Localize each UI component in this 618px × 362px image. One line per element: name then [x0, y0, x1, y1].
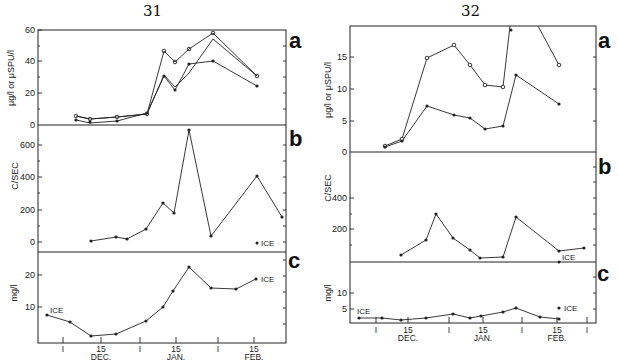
- fig31-a-filled-markers: [74, 59, 258, 123]
- fig31-panel-label-c: c: [288, 248, 300, 273]
- fig31-c-ice-annotation-left: ICE: [50, 306, 63, 315]
- fig31-a-ytick-20: 20: [25, 88, 35, 98]
- fig32-c-markers: [357, 306, 560, 321]
- fig31-b-ice-annotation: ICE: [261, 239, 274, 248]
- fig31-a-open-markers: [74, 31, 259, 121]
- fig31-xtick-1: I: [62, 344, 64, 354]
- fig31-c-ytick-20: 20: [25, 270, 35, 280]
- fig32-xtick-1d: I: [586, 325, 588, 335]
- figure-31: 60 40 20 0 μg/l or μSPU/l a: [6, 25, 302, 362]
- fig31-panel-label-b: b: [289, 126, 302, 151]
- fig31-xtick-1b: I: [139, 344, 141, 354]
- fig32-c-yticks: [350, 277, 596, 309]
- fig31-a-filled-series: [76, 61, 257, 123]
- fig32-b-ice-annotation: ICE: [562, 253, 575, 262]
- fig31-c-yticks: [38, 260, 286, 324]
- fig31-a-ylabel: μg/l or μSPU/l: [6, 50, 16, 106]
- fig32-c-ice-annotation-right: ICE: [564, 304, 577, 313]
- fig32-c-ytick-5: 5: [342, 304, 347, 314]
- figure-32: 15 10 5 0 μg/l or μSPU/l a 400 200: [323, 26, 611, 343]
- fig32-c-ice-annotation-left: ICE: [357, 307, 370, 316]
- fig32-b-ytick-400: 400: [332, 193, 347, 203]
- fig32-month-jan: JAN.: [474, 333, 492, 343]
- fig31-b-series: [91, 130, 282, 241]
- fig31-month-feb: FEB.: [245, 352, 264, 362]
- fig32-xtick-1b: I: [448, 325, 450, 335]
- fig31-b-ytick-600: 600: [20, 140, 35, 150]
- fig31-a-ytick-60: 60: [25, 25, 35, 35]
- fig31-a-open-series-line: [76, 33, 257, 119]
- fig31-a-ytick-0: 0: [30, 120, 35, 130]
- fig32-b-yticks: [350, 167, 596, 245]
- fig31-c-series: [47, 267, 256, 336]
- fig31-b-ylabel: C/SEC: [10, 162, 20, 190]
- fig31-xtick-1c: I: [217, 344, 219, 354]
- fig32-a-ytick-15: 15: [337, 52, 347, 62]
- fig32-a-ytick-0: 0: [342, 147, 347, 157]
- fig32-a-ytick-10: 10: [337, 84, 347, 94]
- fig31-c-ytick-10: 10: [25, 302, 35, 312]
- fig32-month-dec: DEC.: [398, 333, 418, 343]
- fig32-c-series: [359, 308, 559, 320]
- fig31-x-ticks: [63, 337, 254, 343]
- fig31-month-jan: JAN.: [167, 352, 185, 362]
- fig31-c-ice-annotation-right: ICE: [261, 275, 274, 284]
- fig31-b-ytick-0: 0: [30, 237, 35, 247]
- fig32-x-ticks: [376, 317, 587, 323]
- fig31-c-ylabel: mg/l: [9, 284, 19, 301]
- fig32-b-ytick-200: 200: [332, 224, 347, 234]
- fig32-a-open-markers: [383, 43, 561, 148]
- fig32-frame: [350, 26, 596, 323]
- fig32-c-ytick-10: 10: [337, 288, 347, 298]
- fig31-b-ytick-200: 200: [20, 205, 35, 215]
- fig32-panel-label-a: a: [598, 28, 611, 53]
- fig31-b-yticks: [38, 145, 286, 242]
- fig32-b-markers: [399, 212, 585, 263]
- fig32-panel-label-c: c: [597, 261, 609, 286]
- fig31-month-dec: DEC.: [91, 352, 111, 362]
- fig32-a-ylabel: μg/l or μSPU/l: [323, 62, 333, 118]
- fig32-xtick-1c: I: [521, 325, 523, 335]
- figures-canvas: 60 40 20 0 μg/l or μSPU/l a: [0, 0, 618, 362]
- fig32-month-feb: FEB.: [548, 333, 567, 343]
- fig32-panel-label-b: b: [598, 154, 611, 179]
- fig31-a-ytick-40: 40: [25, 56, 35, 66]
- fig31-panel-label-a: a: [289, 28, 302, 53]
- fig31-b-ytick-400: 400: [20, 172, 35, 182]
- fig32-b-ylabel: C/SEC: [323, 174, 333, 202]
- fig32-c-ylabel: mg/l: [323, 284, 333, 301]
- fig32-b-series: [401, 214, 584, 258]
- fig32-a-ytick-5: 5: [342, 116, 347, 126]
- fig32-xtick-1: I: [375, 325, 377, 335]
- fig32-a-open-series-tail: [538, 26, 559, 65]
